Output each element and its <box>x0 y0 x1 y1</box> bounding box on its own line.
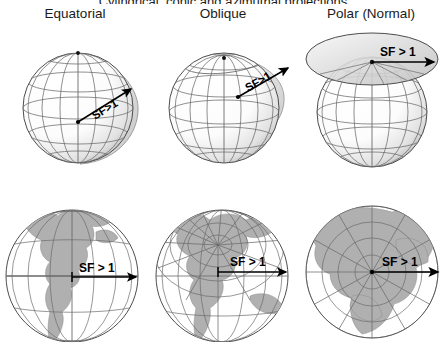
sf-label-map-equatorial: SF > 1 <box>79 261 115 275</box>
sf-label-map-polar: SF > 1 <box>382 255 418 269</box>
column-label-polar: Polar (Normal) <box>296 6 446 21</box>
north-pole-marker-equatorial <box>76 51 80 55</box>
tangent-plane-polar <box>306 33 438 85</box>
projection-aspects-figure: Cylindrical, conic and azimuthal project… <box>0 0 446 342</box>
column-label-equatorial: Equatorial <box>0 6 150 21</box>
globe-equatorial: SF>1 <box>23 50 138 165</box>
globe-oblique: SF>1 <box>169 47 288 168</box>
tangent-point-oblique <box>222 56 226 60</box>
figure-canvas: SF>1 S <box>0 0 446 342</box>
figure-title: Cylindrical, conic and azimuthal project… <box>0 0 446 4</box>
sf-label-globe-polar: SF > 1 <box>380 45 416 59</box>
map-polar: SF > 1 <box>306 206 438 342</box>
sf-label-map-oblique: SF > 1 <box>230 255 266 269</box>
map-equatorial: SF > 1 <box>6 208 138 342</box>
column-label-oblique: Oblique <box>148 6 298 21</box>
map-oblique: SF > 1 <box>152 193 302 342</box>
globe-polar: SF > 1 <box>306 33 438 168</box>
